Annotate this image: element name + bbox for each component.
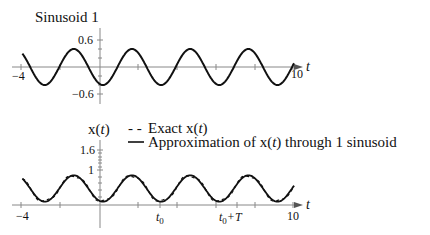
- approximation-curve: [22, 175, 294, 201]
- top-plot-title: Sinusoid 1: [35, 9, 99, 25]
- top-x-axis-label: t: [306, 59, 311, 74]
- legend-exact-marker: - -: [128, 120, 142, 136]
- top-xtick-max: 10: [291, 67, 303, 81]
- bottom-x-axis-arrow-icon: [294, 202, 303, 208]
- figure: Sinusoid 1 t −4 10 0.6 −0.6: [0, 0, 430, 235]
- bottom-xtick-t0: t0: [156, 210, 164, 226]
- top-ytick-pos: 0.6: [78, 33, 93, 47]
- bottom-plot: x(t) - - Exact x(t) Approximation of x(t…: [12, 120, 397, 228]
- bottom-xtick-t0-plus-T: t0+T: [219, 210, 243, 226]
- bottom-x-axis-label: t: [306, 197, 311, 212]
- legend-approx-label: Approximation of x(t) through 1 sinusoid: [148, 134, 397, 151]
- bottom-y-axis-label: x(t): [88, 121, 110, 138]
- top-ytick-neg: −0.6: [72, 87, 94, 101]
- exact-curve: [22, 176, 294, 201]
- top-plot: Sinusoid 1 t −4 10 0.6 −0.6: [12, 9, 311, 104]
- bottom-ytick-top: 1.6: [80, 143, 95, 157]
- bottom-xtick-max: 10: [287, 209, 299, 223]
- legend: - - Exact x(t) Approximation of x(t) thr…: [128, 120, 397, 151]
- top-xtick-min: −4: [12, 69, 25, 83]
- bottom-ytick-one: 1: [88, 163, 94, 177]
- bottom-xtick-min: −4: [16, 209, 29, 223]
